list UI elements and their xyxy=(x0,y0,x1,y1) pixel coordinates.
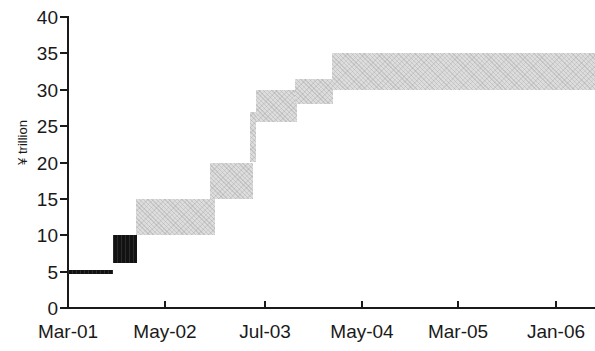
x-tick-Jan-06 xyxy=(555,301,557,309)
x-tick-label-Jan-06: Jan-06 xyxy=(527,322,585,341)
chart-container: ¥ trillion 0510152025303540 Mar-01May-02… xyxy=(0,0,595,351)
x-tick-May-02 xyxy=(164,301,166,309)
data-band-1 xyxy=(68,270,113,274)
y-tick-40 xyxy=(60,16,68,18)
x-tick-label-May-04: May-04 xyxy=(330,322,393,341)
y-tick-label-0: 0 xyxy=(18,299,58,318)
y-tick-label-30: 30 xyxy=(18,80,58,99)
y-tick-label-35: 35 xyxy=(18,44,58,63)
y-tick-5 xyxy=(60,271,68,273)
y-tick-20 xyxy=(60,162,68,164)
data-band-6 xyxy=(256,90,297,123)
data-band-2 xyxy=(113,235,137,263)
y-tick-25 xyxy=(60,125,68,127)
data-band-4 xyxy=(210,163,253,199)
x-axis-line xyxy=(67,307,595,309)
x-tick-Mar-01 xyxy=(67,301,69,309)
y-tick-label-25: 25 xyxy=(18,117,58,136)
y-tick-label-15: 15 xyxy=(18,189,58,208)
y-tick-10 xyxy=(60,234,68,236)
data-band-3 xyxy=(136,199,215,235)
y-tick-label-40: 40 xyxy=(18,8,58,27)
x-tick-label-May-02: May-02 xyxy=(133,322,196,341)
data-band-7 xyxy=(295,79,333,104)
x-tick-May-04 xyxy=(361,301,363,309)
y-tick-15 xyxy=(60,198,68,200)
y-tick-30 xyxy=(60,89,68,91)
y-tick-label-10: 10 xyxy=(18,226,58,245)
y-tick-label-20: 20 xyxy=(18,153,58,172)
y-tick-35 xyxy=(60,52,68,54)
y-axis-title: ¥ trillion xyxy=(15,83,30,203)
y-tick-label-5: 5 xyxy=(18,262,58,281)
x-tick-label-Mar-01: Mar-01 xyxy=(38,322,98,341)
x-tick-label-Jul-03: Jul-03 xyxy=(239,322,291,341)
data-band-8 xyxy=(332,53,595,89)
x-tick-Mar-05 xyxy=(457,301,459,309)
x-tick-label-Mar-05: Mar-05 xyxy=(428,322,488,341)
x-tick-Jul-03 xyxy=(264,301,266,309)
